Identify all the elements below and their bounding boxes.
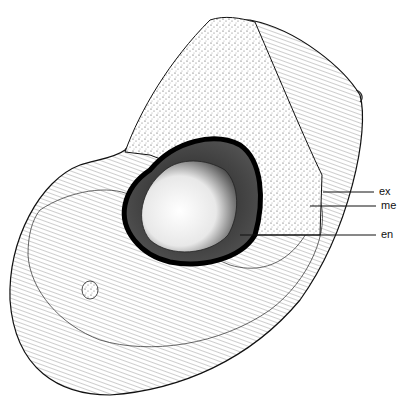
- fruit-illustration: ex me en: [0, 0, 404, 407]
- label-exocarp: ex: [379, 185, 391, 197]
- label-endocarp: en: [381, 228, 393, 240]
- stem-scar: [82, 281, 98, 299]
- label-mesocarp: me: [381, 199, 396, 211]
- fruit-drawing: [0, 0, 404, 407]
